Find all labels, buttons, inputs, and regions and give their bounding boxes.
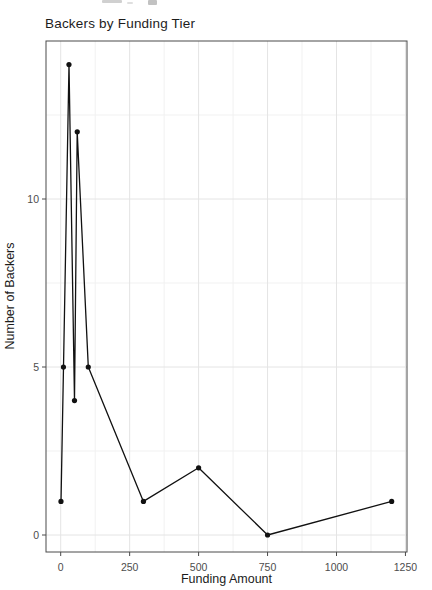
data-point (196, 465, 201, 470)
data-point (66, 62, 71, 67)
line-chart-plot: 0250500750100012500510 (0, 0, 432, 590)
data-point (141, 499, 146, 504)
data-point (86, 364, 91, 369)
plot-panel (46, 41, 407, 552)
page: 0250500750100012500510 Backers by Fundin… (0, 0, 432, 590)
y-tick-label: 0 (33, 529, 39, 541)
y-axis-title: Number of Backers (3, 243, 17, 350)
data-point (75, 129, 80, 134)
y-tick-label: 10 (27, 193, 39, 205)
y-tick-label: 5 (33, 361, 39, 373)
data-point (58, 499, 63, 504)
x-axis-title: Funding Amount (46, 572, 407, 586)
chart-title: Backers by Funding Tier (45, 16, 195, 31)
data-point (72, 398, 77, 403)
data-point (265, 532, 270, 537)
data-point (389, 499, 394, 504)
data-point (61, 364, 66, 369)
